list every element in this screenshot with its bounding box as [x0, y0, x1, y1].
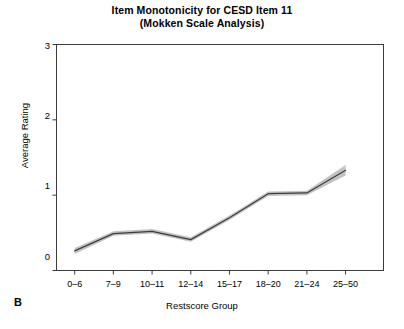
y-tick-marks [53, 45, 57, 271]
plot-area [0, 0, 404, 329]
figure-panel: Item Monotonicity for CESD Item 11 (Mokk… [0, 0, 404, 329]
monotonicity-line [75, 170, 346, 251]
confidence-band [75, 165, 346, 254]
x-tick-marks [75, 271, 346, 275]
